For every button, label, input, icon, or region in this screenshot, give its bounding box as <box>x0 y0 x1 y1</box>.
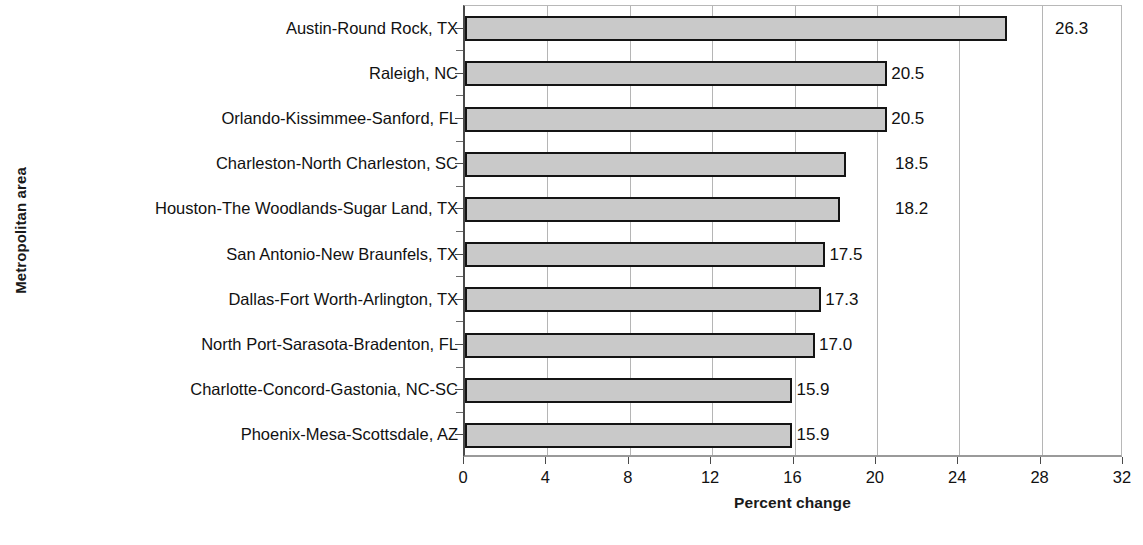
x-axis-tick <box>875 457 876 464</box>
data-label: 15.9 <box>796 426 829 443</box>
x-axis-tick <box>628 457 629 464</box>
plot-area <box>463 5 1122 457</box>
bar <box>465 333 815 358</box>
gridline <box>959 6 960 455</box>
category-label: Dallas-Fort Worth-Arlington, TX <box>40 291 458 308</box>
category-axis-labels: Austin-Round Rock, TXRaleigh, NCOrlando-… <box>40 5 458 457</box>
y-axis-title-text: Metropolitan area <box>12 167 29 294</box>
bar <box>465 197 840 222</box>
data-label: 26.3 <box>1055 20 1088 37</box>
data-label: 20.5 <box>891 110 924 127</box>
bar <box>465 61 887 86</box>
x-axis-tick-label: 32 <box>1113 469 1131 486</box>
data-label: 18.5 <box>895 155 928 172</box>
category-label: Phoenix-Mesa-Scottsdale, AZ <box>40 426 458 443</box>
data-label: 20.5 <box>891 65 924 82</box>
category-label: Raleigh, NC <box>40 65 458 82</box>
bar <box>465 378 792 403</box>
bar <box>465 107 887 132</box>
data-label: 18.2 <box>895 200 928 217</box>
bar-chart: Metropolitan area Austin-Round Rock, TXR… <box>0 0 1143 545</box>
bar <box>465 423 792 448</box>
x-axis-tick-label: 20 <box>866 469 884 486</box>
data-label: 17.3 <box>825 291 858 308</box>
gridline <box>1042 6 1043 455</box>
category-label: Austin-Round Rock, TX <box>40 20 458 37</box>
y-axis-title: Metropolitan area <box>6 0 34 460</box>
x-axis-tick-label: 8 <box>623 469 632 486</box>
x-axis-tick-label: 24 <box>948 469 966 486</box>
category-label: San Antonio-New Braunfels, TX <box>40 246 458 263</box>
x-axis-tick <box>793 457 794 464</box>
x-axis-tick-label: 4 <box>541 469 550 486</box>
category-label: Charleston-North Charleston, SC <box>40 155 458 172</box>
category-label: Orlando-Kissimmee-Sanford, FL <box>40 110 458 127</box>
x-axis-tick-label: 12 <box>701 469 719 486</box>
bar <box>465 242 825 267</box>
data-label: 15.9 <box>796 381 829 398</box>
bar <box>465 287 821 312</box>
category-label: Houston-The Woodlands-Sugar Land, TX <box>40 200 458 217</box>
x-axis-tick-label: 28 <box>1030 469 1048 486</box>
x-axis-tick <box>957 457 958 464</box>
x-axis-tick <box>545 457 546 464</box>
x-axis-tick-label: 16 <box>783 469 801 486</box>
bar <box>465 152 846 177</box>
x-axis-tick <box>463 457 464 464</box>
bar <box>465 16 1007 41</box>
x-axis-title: Percent change <box>463 494 1122 512</box>
data-label: 17.0 <box>819 336 852 353</box>
category-label: North Port-Sarasota-Bradenton, FL <box>40 336 458 353</box>
x-axis-tick-label: 0 <box>458 469 467 486</box>
x-axis-tick <box>710 457 711 464</box>
x-axis-tick <box>1040 457 1041 464</box>
category-label: Charlotte-Concord-Gastonia, NC-SC <box>40 381 458 398</box>
data-label: 17.5 <box>829 246 862 263</box>
x-axis-tick <box>1122 457 1123 464</box>
